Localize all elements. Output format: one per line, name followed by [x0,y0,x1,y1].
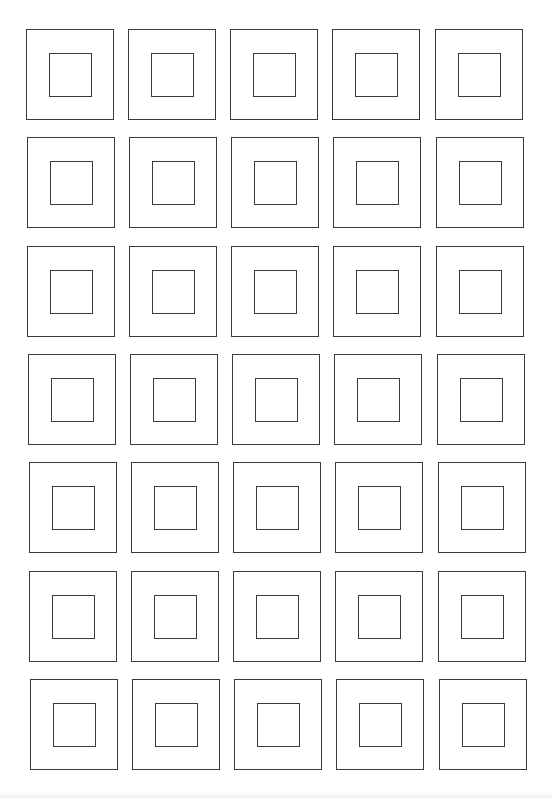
inner-square [153,378,196,422]
outer-square [130,354,218,445]
outer-square [336,679,424,770]
inner-square [50,270,93,314]
outer-square [231,246,319,337]
outer-square [231,137,319,228]
inner-square [256,595,299,639]
inner-square [357,378,400,422]
inner-square [254,270,297,314]
outer-square [436,137,524,228]
inner-square [52,486,95,530]
inner-square [154,486,197,530]
inner-square [461,595,504,639]
outer-square [438,571,526,662]
inner-square [358,595,401,639]
inner-square [458,53,501,97]
inner-square [50,161,93,205]
outer-square [234,679,322,770]
outer-square [437,354,525,445]
outer-square [26,29,114,120]
outer-square [29,462,117,553]
outer-square [232,354,320,445]
outer-square [129,137,217,228]
inner-square [459,270,502,314]
outer-square [439,679,527,770]
outer-square [332,29,420,120]
outer-square [230,29,318,120]
outer-square [333,246,421,337]
outer-square [132,679,220,770]
inner-square [359,703,402,747]
outer-square [29,571,117,662]
outer-square [438,462,526,553]
inner-square [460,378,503,422]
inner-square [254,161,297,205]
nested-squares-grid [0,0,552,798]
inner-square [155,703,198,747]
outer-square [436,246,524,337]
outer-square [233,462,321,553]
inner-square [152,270,195,314]
inner-square [358,486,401,530]
outer-square [128,29,216,120]
inner-square [52,595,95,639]
inner-square [253,53,296,97]
outer-square [131,462,219,553]
outer-square [334,354,422,445]
inner-square [152,161,195,205]
outer-square [233,571,321,662]
outer-square [27,246,115,337]
outer-square [28,354,116,445]
inner-square [461,486,504,530]
outer-square [435,29,523,120]
inner-square [462,703,505,747]
inner-square [51,378,94,422]
outer-square [129,246,217,337]
outer-square [27,137,115,228]
inner-square [459,161,502,205]
inner-square [255,378,298,422]
outer-square [333,137,421,228]
page-bottom-edge [0,792,552,798]
inner-square [356,161,399,205]
inner-square [49,53,92,97]
inner-square [151,53,194,97]
inner-square [53,703,96,747]
inner-square [256,486,299,530]
outer-square [335,571,423,662]
inner-square [154,595,197,639]
inner-square [355,53,398,97]
inner-square [257,703,300,747]
outer-square [335,462,423,553]
outer-square [131,571,219,662]
outer-square [30,679,118,770]
inner-square [356,270,399,314]
